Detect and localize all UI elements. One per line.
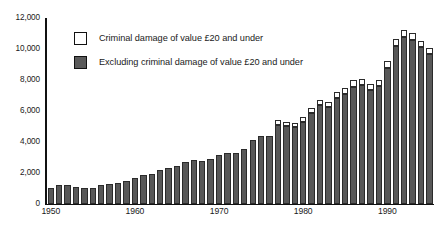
x-axis-tick-label: 1950	[41, 206, 60, 216]
bar	[149, 174, 155, 204]
bar-segment-excluding-criminal-damage	[250, 140, 256, 204]
bar	[359, 79, 365, 204]
bar-segment-excluding-criminal-damage	[233, 153, 239, 204]
x-axis: 19501960197019801990	[0, 206, 437, 222]
bar	[266, 136, 272, 204]
bar-segment-excluding-criminal-damage	[384, 68, 390, 204]
bar	[334, 92, 340, 204]
bar	[300, 117, 306, 204]
bar	[165, 168, 171, 204]
bar-segment-excluding-criminal-damage	[325, 107, 331, 204]
bar	[207, 159, 213, 204]
bar-segment-excluding-criminal-damage	[56, 185, 62, 204]
bar	[250, 140, 256, 204]
x-axis-tick-label: 1980	[294, 206, 313, 216]
bar-segment-excluding-criminal-damage	[426, 54, 432, 204]
bar	[241, 149, 247, 204]
bar-segment-criminal-damage	[317, 100, 323, 105]
bar-segment-criminal-damage	[418, 41, 424, 47]
bar-segment-criminal-damage	[359, 79, 365, 85]
bar-segment-criminal-damage	[283, 122, 289, 126]
bar-segment-excluding-criminal-damage	[258, 136, 264, 204]
bar-segment-excluding-criminal-damage	[334, 98, 340, 204]
bar-segment-excluding-criminal-damage	[90, 188, 96, 204]
x-axis-tick-label: 1990	[378, 206, 397, 216]
bar	[157, 170, 163, 204]
bar	[224, 153, 230, 204]
bar-segment-excluding-criminal-damage	[182, 162, 188, 204]
bar	[384, 61, 390, 204]
bar-segment-excluding-criminal-damage	[359, 85, 365, 204]
bar-segment-excluding-criminal-damage	[64, 185, 70, 204]
bar-segment-excluding-criminal-damage	[342, 94, 348, 204]
bar	[98, 185, 104, 204]
bar-segment-criminal-damage	[300, 117, 306, 121]
bar-segment-excluding-criminal-damage	[283, 126, 289, 204]
bar	[292, 123, 298, 204]
y-axis: 12,00010,0008,0006,0004,0002,0000	[0, 0, 40, 236]
bar	[283, 122, 289, 204]
bar-segment-excluding-criminal-damage	[216, 155, 222, 204]
bar	[132, 178, 138, 204]
bar	[418, 41, 424, 204]
bar-segment-excluding-criminal-damage	[98, 185, 104, 204]
bar	[56, 185, 62, 204]
bar-segment-excluding-criminal-damage	[106, 184, 112, 204]
bar-segment-excluding-criminal-damage	[48, 188, 54, 204]
bar-segment-excluding-criminal-damage	[350, 87, 356, 204]
y-axis-tick-label: 2,000	[0, 169, 40, 177]
bar	[106, 184, 112, 204]
bar-segment-criminal-damage	[350, 80, 356, 86]
bar-segment-excluding-criminal-damage	[157, 170, 163, 204]
bar-segment-excluding-criminal-damage	[191, 160, 197, 204]
bar-segment-excluding-criminal-damage	[149, 174, 155, 204]
bar-segment-excluding-criminal-damage	[132, 178, 138, 204]
bar	[123, 181, 129, 204]
bar-segment-excluding-criminal-damage	[308, 113, 314, 204]
legend-item-excluding-criminal-damage: Excluding criminal damage of value £20 a…	[74, 53, 394, 71]
bar-segment-excluding-criminal-damage	[409, 40, 415, 204]
bar-segment-excluding-criminal-damage	[401, 37, 407, 204]
bar-segment-criminal-damage	[409, 33, 415, 40]
bar-segment-criminal-damage	[376, 80, 382, 86]
bar-segment-excluding-criminal-damage	[199, 161, 205, 204]
bar-segment-excluding-criminal-damage	[376, 86, 382, 204]
bar-segment-excluding-criminal-damage	[73, 187, 79, 204]
bar-segment-excluding-criminal-damage	[115, 183, 121, 204]
bar-segment-criminal-damage	[325, 102, 331, 107]
bar	[233, 153, 239, 204]
bar	[426, 48, 432, 204]
bar	[342, 88, 348, 204]
y-axis-tick-label: 8,000	[0, 76, 40, 84]
bar-segment-excluding-criminal-damage	[367, 90, 373, 204]
bar-segment-excluding-criminal-damage	[224, 153, 230, 204]
bar	[216, 155, 222, 204]
bar-segment-criminal-damage	[275, 120, 281, 124]
bar-segment-excluding-criminal-damage	[275, 125, 281, 205]
bar	[367, 84, 373, 204]
bar-segment-excluding-criminal-damage	[81, 188, 87, 204]
legend-label: Criminal damage of value £20 and under	[99, 33, 263, 43]
bar-segment-excluding-criminal-damage	[140, 175, 146, 204]
bar-segment-excluding-criminal-damage	[174, 166, 180, 204]
bar	[376, 80, 382, 204]
bar	[199, 161, 205, 204]
legend-label: Excluding criminal damage of value £20 a…	[99, 57, 303, 67]
bar-segment-criminal-damage	[401, 30, 407, 37]
legend-swatch-white	[74, 32, 87, 45]
bar-segment-criminal-damage	[342, 88, 348, 94]
x-axis-tick-label: 1960	[126, 206, 145, 216]
bar-segment-excluding-criminal-damage	[317, 105, 323, 204]
bar	[73, 187, 79, 204]
bar	[90, 188, 96, 204]
bar	[191, 160, 197, 204]
bar-segment-criminal-damage	[292, 123, 298, 127]
bar-segment-criminal-damage	[308, 108, 314, 113]
legend-item-criminal-damage: Criminal damage of value £20 and under	[74, 29, 394, 47]
bar	[317, 100, 323, 204]
bar-segment-criminal-damage	[367, 84, 373, 90]
bar	[115, 183, 121, 204]
bar	[401, 30, 407, 204]
bar-segment-excluding-criminal-damage	[241, 149, 247, 204]
bar-segment-excluding-criminal-damage	[266, 136, 272, 204]
